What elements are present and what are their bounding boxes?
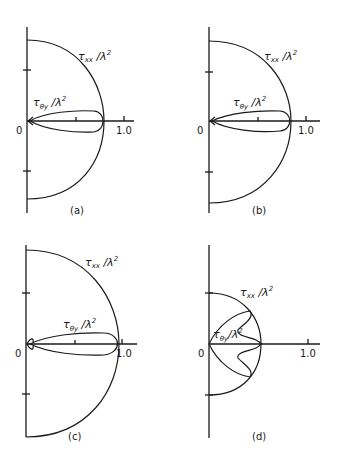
txx-label: τxx /λ2: [240, 285, 274, 300]
panel-label: (b): [252, 205, 266, 216]
panel-label: (a): [70, 205, 84, 216]
tty-label: τθy /λ2: [33, 95, 67, 111]
panel-a: 0 1.0 τxx /λ2 τθy /λ2 (a): [16, 27, 134, 216]
panel-label: (d): [252, 431, 266, 442]
tty-label: τθy /λ2: [233, 95, 267, 111]
panel-d: 0 1.0 τxx /λ2 τθy/λ2 (d): [198, 245, 320, 442]
tick-label: 1.0: [116, 348, 132, 359]
txx-label: τxx /λ2: [264, 49, 298, 64]
origin-label: 0: [16, 125, 22, 136]
tick-label: 1.0: [116, 125, 132, 136]
tty-label: τθy /λ2: [63, 317, 97, 333]
tick-label: 1.0: [300, 348, 316, 359]
txx-curve: [209, 41, 291, 203]
origin-label: 0: [15, 348, 21, 359]
panel-label: (c): [68, 431, 81, 442]
figure: 0 1.0 τxx /λ2 τθy /λ2 (a) 0 1.0 τxx /λ2 …: [0, 0, 337, 460]
origin-label: 0: [198, 348, 204, 359]
origin-label: 0: [197, 125, 203, 136]
tick-label: 1.0: [298, 125, 314, 136]
panel-b: 0 1.0 τxx /λ2 τθy /λ2 (b): [197, 27, 320, 216]
txx-label: τxx /λ2: [78, 49, 112, 64]
txx-label: τxx /λ2: [85, 255, 119, 270]
panel-c: 0 1.0 τxx /λ2 τθy /λ2 (c): [15, 245, 137, 442]
tty-label: τθy/λ2: [213, 327, 243, 343]
